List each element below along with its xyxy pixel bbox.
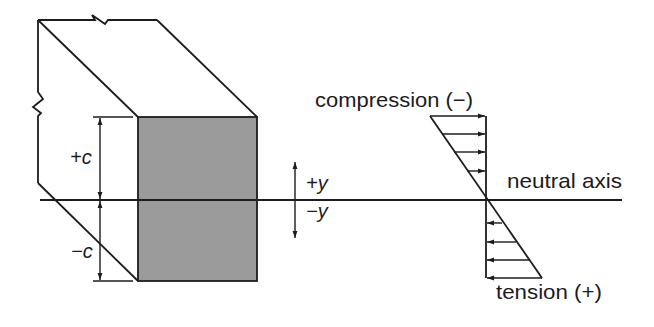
c-dimension: +c −c (70, 117, 133, 281)
tension-label: tension (+) (496, 280, 602, 303)
beam-top-right-diagonal (157, 20, 257, 117)
compression-label: compression (−) (315, 88, 473, 111)
minus-y-label: −y (306, 200, 329, 222)
plus-y-label: +y (306, 172, 329, 194)
stress-distribution: compression (−) neutral axis tension (+) (315, 88, 622, 303)
minus-c-label: −c (71, 240, 93, 262)
compression-arrows (430, 116, 485, 171)
beam-top-left-diagonal (38, 20, 138, 117)
beam-left-edge-break (33, 20, 43, 183)
neutral-axis-label: neutral axis (507, 169, 622, 192)
beam-cross-section (138, 117, 257, 281)
tension-arrows (487, 223, 542, 278)
beam-top-edge-break (38, 15, 157, 24)
beam-bottom-left-diagonal (38, 183, 138, 281)
beam-bending-diagram: +c −c +y −y compression (−) neutral axis… (0, 0, 654, 327)
plus-c-label: +c (70, 146, 92, 168)
